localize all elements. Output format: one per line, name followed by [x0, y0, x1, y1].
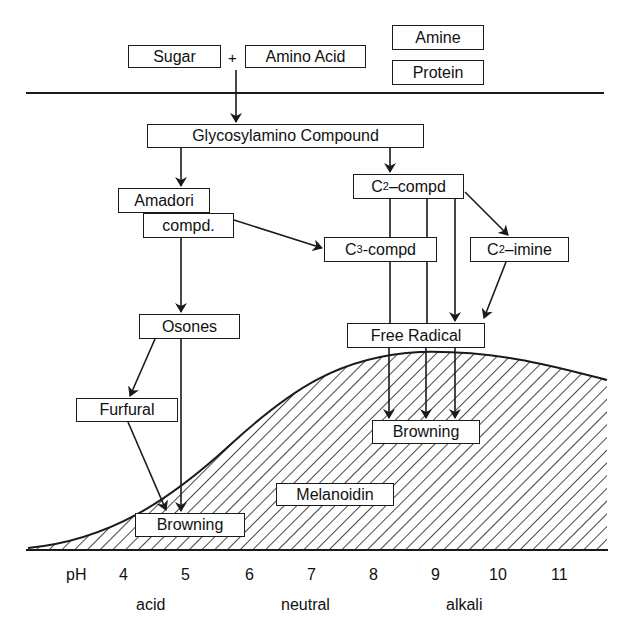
- ph-tick-9: 9: [431, 567, 440, 583]
- melanoidin-label: Melanoidin: [296, 487, 373, 503]
- glycosylamino-label: Glycosylamino Compound: [192, 128, 379, 144]
- c2-compd-box: C2–compd: [353, 174, 464, 199]
- arrow-c2-to-c2imine: [465, 192, 508, 235]
- melanoidin-curve-area: [28, 352, 607, 549]
- c2-compd-suffix: –compd: [389, 179, 446, 195]
- c2-compd-prefix: C: [371, 179, 383, 195]
- amino-acid-box: Amino Acid: [245, 45, 366, 68]
- amino-acid-label: Amino Acid: [265, 49, 345, 65]
- ph-tick-4: 4: [119, 567, 128, 583]
- browning-left-label: Browning: [157, 517, 224, 533]
- amadori-box: Amadori: [118, 188, 210, 213]
- melanoidin-box: Melanoidin: [276, 483, 394, 506]
- c3-compd-suffix: -compd: [363, 242, 416, 258]
- sugar-box: Sugar: [128, 45, 221, 68]
- browning-right-box: Browning: [372, 420, 480, 444]
- sugar-label: Sugar: [153, 49, 196, 65]
- plus-sign: +: [228, 50, 237, 65]
- c2-imine-box: C2–imine: [470, 237, 569, 262]
- browning-left-box: Browning: [135, 513, 245, 537]
- ph-tick-11: 11: [551, 567, 568, 583]
- free-radical-box: Free Radical: [347, 323, 485, 348]
- region-neutral: neutral: [281, 597, 330, 613]
- free-radical-label: Free Radical: [371, 328, 462, 344]
- c2-imine-suffix: –imine: [505, 242, 552, 258]
- glycosylamino-box: Glycosylamino Compound: [147, 124, 424, 148]
- arrow-amadori-to-c3: [234, 220, 322, 248]
- region-alkali: alkali: [446, 597, 482, 613]
- furfural-label: Furfural: [99, 402, 154, 418]
- ph-tick-5: 5: [181, 567, 190, 583]
- amadori-compd-label: compd.: [162, 218, 214, 234]
- protein-box: Protein: [392, 60, 484, 85]
- ph-tick-6: 6: [245, 567, 254, 583]
- ph-tick-7: 7: [307, 567, 316, 583]
- arrow-c2imine-to-free-radical: [484, 262, 506, 318]
- amine-label: Amine: [415, 30, 460, 46]
- osones-label: Osones: [162, 319, 217, 335]
- diagram-canvas: [0, 0, 626, 624]
- ph-tick-8: 8: [369, 567, 378, 583]
- furfural-box: Furfural: [76, 398, 178, 422]
- region-acid: acid: [136, 597, 165, 613]
- c2-imine-prefix: C: [487, 242, 499, 258]
- ph-axis-label: pH: [66, 567, 86, 583]
- c3-compd-box: C3-compd: [324, 237, 437, 262]
- amadori-compd-box: compd.: [143, 213, 234, 238]
- arrow-furfural-to-browning: [128, 422, 166, 510]
- amadori-label: Amadori: [134, 193, 194, 209]
- osones-box: Osones: [139, 314, 240, 339]
- browning-right-label: Browning: [393, 424, 460, 440]
- amine-box: Amine: [392, 25, 484, 50]
- arrow-osones-to-furfural: [130, 339, 155, 396]
- c3-compd-prefix: C: [345, 242, 357, 258]
- protein-label: Protein: [413, 65, 464, 81]
- ph-tick-10: 10: [489, 567, 507, 583]
